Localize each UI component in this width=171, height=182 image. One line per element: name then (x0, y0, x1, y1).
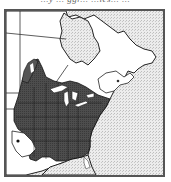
range-dot-maritimes (117, 80, 120, 83)
map-svg (6, 11, 163, 175)
isolated-population-dot (16, 139, 19, 142)
map-caption: ...y ... ggr... ...ies... ... (0, 0, 171, 4)
range-map (4, 9, 165, 177)
